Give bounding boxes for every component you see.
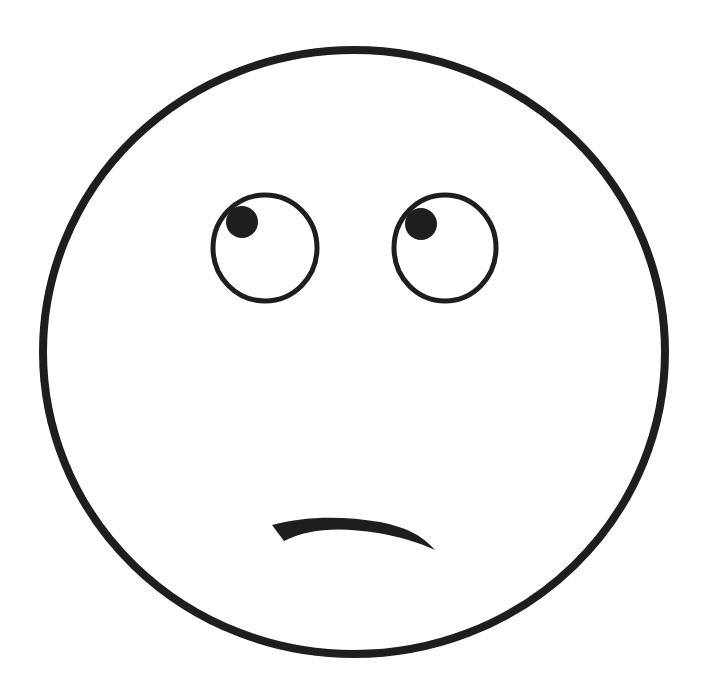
left-eye-outline bbox=[213, 195, 317, 301]
face-outline bbox=[43, 50, 665, 654]
right-pupil-icon bbox=[405, 208, 437, 240]
face-illustration bbox=[0, 0, 704, 692]
right-eye bbox=[394, 195, 496, 301]
right-eye-outline bbox=[394, 195, 496, 301]
left-pupil-icon bbox=[226, 206, 258, 238]
left-eye bbox=[213, 195, 317, 301]
drawing-canvas: face-eye-roll-drawing bbox=[0, 0, 704, 692]
